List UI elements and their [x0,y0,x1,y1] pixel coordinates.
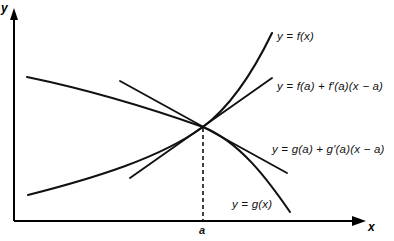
x-tick-label-a: a [199,224,205,236]
y-axis-label: y [1,1,8,15]
label-curve-g: y = g(x) [232,198,272,210]
diagram-background [0,0,394,241]
x-axis-label: x [368,220,375,234]
tangent-line-diagram [0,0,394,241]
label-curve-f: y = f(x) [277,30,314,42]
label-tangent-f: y = f(a) + f′(a)(x − a) [277,80,383,92]
label-tangent-g: y = g(a) + g′(a)(x − a) [272,143,385,155]
